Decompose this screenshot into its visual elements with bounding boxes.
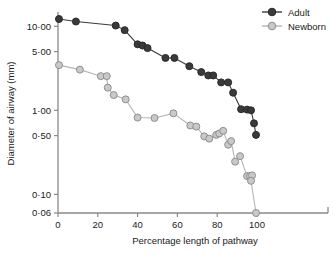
x-tick-label: 100: [249, 219, 265, 230]
data-point-adult: [144, 45, 151, 52]
y-tick-label: 1·00: [32, 105, 51, 116]
data-point-adult: [186, 63, 193, 70]
y-tick-label: 0·50: [32, 130, 51, 141]
data-point-adult: [225, 79, 232, 86]
data-point-adult: [121, 27, 128, 34]
data-point-adult: [72, 18, 79, 25]
data-point-adult: [162, 54, 169, 61]
data-point-adult: [210, 72, 217, 79]
data-point-newborn: [228, 138, 235, 145]
data-point-adult: [218, 79, 225, 86]
data-point-newborn: [76, 66, 83, 73]
data-point-adult: [230, 89, 237, 96]
data-point-adult: [248, 107, 255, 114]
y-tick-label: 0·10: [32, 189, 51, 200]
data-point-newborn: [103, 73, 110, 80]
data-point-newborn: [253, 210, 260, 217]
data-point-adult: [198, 69, 205, 76]
y-tick-label: 0·06: [32, 207, 51, 218]
data-point-newborn: [237, 153, 244, 160]
legend-label-adult: Adult: [288, 7, 310, 18]
x-tick-label: 60: [172, 219, 183, 230]
x-tick-label: 40: [132, 219, 143, 230]
data-point-newborn: [104, 84, 111, 91]
legend-marker-newborn: [268, 22, 276, 30]
y-tick-label: 5·00: [32, 46, 51, 57]
data-point-newborn: [134, 114, 141, 121]
data-point-newborn: [151, 115, 158, 122]
data-point-newborn: [170, 110, 177, 117]
x-tick-label: 0: [55, 219, 60, 230]
data-point-newborn: [122, 96, 129, 103]
x-tick-label: 20: [93, 219, 104, 230]
data-point-newborn: [206, 135, 213, 142]
data-point-newborn: [220, 127, 227, 134]
data-point-adult: [251, 120, 258, 127]
data-point-adult: [253, 131, 260, 138]
data-point-adult: [55, 16, 62, 23]
y-tick-label: 10·00: [27, 21, 51, 32]
series-line-newborn: [59, 65, 256, 213]
airway-diameter-log-plot: 10·005·001·000·500·100·06020406080100Per…: [0, 0, 333, 257]
y-axis-label: Diameter of airway (mm): [5, 62, 16, 166]
data-point-adult: [171, 54, 178, 61]
chart-figure: 10·005·001·000·500·100·06020406080100Per…: [0, 0, 333, 257]
data-point-newborn: [55, 62, 62, 69]
x-tick-label: 80: [212, 219, 223, 230]
data-point-adult: [112, 22, 119, 29]
x-axis-label: Percentage length of pathway: [132, 235, 258, 246]
data-point-newborn: [110, 92, 117, 99]
data-point-newborn: [248, 177, 255, 184]
legend-label-newborn: Newborn: [288, 21, 326, 32]
legend-marker-adult: [268, 8, 276, 16]
data-point-newborn: [193, 123, 200, 130]
